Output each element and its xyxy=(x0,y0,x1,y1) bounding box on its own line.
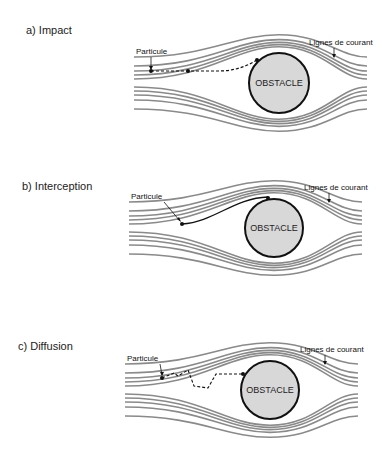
particle-dot xyxy=(255,58,259,62)
particle-label: Particule xyxy=(131,192,163,201)
particle-dot xyxy=(241,372,245,376)
panel-b: OBSTACLELignes de courantParticule xyxy=(129,181,368,276)
streamline xyxy=(125,353,358,382)
obstacle-label: OBSTACLE xyxy=(246,385,293,395)
obstacle-label: OBSTACLE xyxy=(255,78,302,88)
filtration-mechanisms-diagram: OBSTACLELignes de courantParticuleOBSTAC… xyxy=(0,0,382,476)
particle-dot xyxy=(160,376,164,380)
panel-c: OBSTACLELignes de courantParticule xyxy=(125,343,364,438)
streamlines-label: Lignes de courant xyxy=(300,345,364,354)
particle-dot xyxy=(266,196,270,200)
streamline xyxy=(129,191,362,220)
streamline xyxy=(134,91,367,121)
particle-dot xyxy=(149,69,153,73)
particle-label: Particule xyxy=(127,354,159,363)
panel-a: OBSTACLELignes de courantParticule xyxy=(134,35,373,132)
streamline xyxy=(129,236,362,265)
particle-dot xyxy=(180,222,184,226)
streamline xyxy=(125,398,358,427)
particle-dot xyxy=(186,69,190,73)
streamlines-label: Lignes de courant xyxy=(304,183,368,192)
particle-label: Particule xyxy=(136,47,168,56)
streamlines-label: Lignes de courant xyxy=(309,38,373,47)
obstacle-label: OBSTACLE xyxy=(250,223,297,233)
